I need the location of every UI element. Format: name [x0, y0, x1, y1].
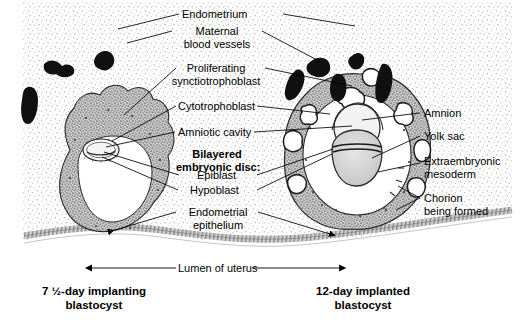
- label-epiblast: Epiblast: [197, 169, 236, 182]
- label-lumen-of-uterus: Lumen of uterus: [178, 262, 258, 275]
- caption-right-blastocyst: 12-day implanted blastocyst: [288, 285, 438, 312]
- caption-left-line1: 7 ½-day implanting: [14, 285, 174, 299]
- label-maternal-blood-vessels-line2: blood vessels: [175, 38, 259, 51]
- label-endometrial-epithelium-line2: epithelium: [178, 219, 258, 232]
- caption-right-line1: 12-day implanted: [288, 285, 438, 299]
- label-chorion-line1: Chorion: [424, 192, 488, 205]
- caption-right-line2: blastocyst: [288, 299, 438, 313]
- label-endometrium: Endometrium: [182, 8, 247, 21]
- label-maternal-blood-vessels-line1: Maternal: [175, 25, 259, 38]
- label-amnion: Amnion: [424, 107, 461, 120]
- label-amniotic-cavity: Amniotic cavity: [178, 126, 251, 139]
- label-extraembryonic-line2: mesoderm: [424, 168, 500, 181]
- label-endometrial-epithelium-line1: Endometrial: [178, 206, 258, 219]
- label-hypoblast: Hypoblast: [190, 184, 239, 197]
- label-bilayered-line1: Bilayered: [176, 148, 258, 161]
- label-proliferating-line2: synctiotrophoblast: [168, 75, 264, 88]
- figure-canvas: Endometrium Maternal blood vessels Proli…: [0, 0, 531, 327]
- caption-left-blastocyst: 7 ½-day implanting blastocyst: [14, 285, 174, 312]
- caption-left-line2: blastocyst: [14, 299, 174, 313]
- label-chorion-being-formed: Chorion being formed: [424, 192, 488, 217]
- label-extraembryonic-line1: Extraembryonic: [424, 155, 500, 168]
- label-proliferating-syncytiotrophoblast: Proliferating synctiotrophoblast: [168, 62, 264, 87]
- label-cytotrophoblast: Cytotrophoblast: [178, 100, 255, 113]
- label-yolk-sac: Yolk sac: [424, 130, 465, 143]
- label-endometrial-epithelium: Endometrial epithelium: [178, 206, 258, 231]
- label-proliferating-line1: Proliferating: [168, 62, 264, 75]
- label-extraembryonic-mesoderm: Extraembryonic mesoderm: [424, 155, 500, 180]
- embryonic-complex-right: [332, 103, 383, 186]
- label-chorion-line2: being formed: [424, 205, 488, 218]
- label-maternal-blood-vessels: Maternal blood vessels: [175, 25, 259, 50]
